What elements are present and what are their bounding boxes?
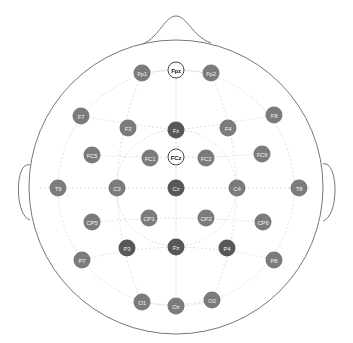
electrode-p4: P4 — [219, 240, 236, 257]
electrode-label: T8 — [296, 185, 303, 191]
electrode-label: P7 — [79, 257, 86, 263]
electrode-label: Fp2 — [206, 70, 216, 76]
electrode-o1: O1 — [134, 294, 151, 311]
electrode-cz: Cz — [168, 180, 185, 197]
electrode-p3: P3 — [119, 240, 136, 257]
right-ear — [323, 164, 335, 221]
electrode-label: CP1 — [143, 215, 154, 221]
electrode-label: F8 — [271, 112, 278, 118]
electrode-f3: F3 — [120, 120, 137, 137]
electrode-o2: O2 — [204, 292, 221, 309]
head-outline-svg — [0, 0, 353, 343]
electrode-label: F7 — [78, 113, 85, 119]
electrode-fp2: Fp2 — [203, 65, 220, 82]
electrode-fc2: FC2 — [198, 150, 215, 167]
electrode-p8: P8 — [266, 252, 283, 269]
electrode-label: Oz — [172, 303, 179, 309]
electrode-fz: Fz — [168, 122, 185, 139]
electrode-label: FC6 — [257, 151, 268, 157]
electrode-label: Cz — [173, 185, 180, 191]
electrode-label: P3 — [124, 245, 131, 251]
electrode-label: C4 — [233, 185, 240, 191]
electrode-cp5: CP5 — [84, 214, 101, 231]
eeg-head-diagram: Fp1FpzFp2F7F3FzF4F8FC5FC1FCzFC2FC6T9C3Cz… — [0, 0, 353, 343]
electrode-label: F4 — [225, 125, 232, 131]
electrode-cp6: CP6 — [255, 214, 272, 231]
electrode-label: Pz — [173, 244, 180, 250]
electrode-label: O1 — [138, 299, 146, 305]
electrode-label: Fp1 — [137, 70, 147, 76]
electrode-pz: Pz — [168, 239, 185, 256]
electrode-label: T9 — [55, 185, 62, 191]
electrode-p7: P7 — [74, 252, 91, 269]
left-ear — [18, 165, 30, 220]
electrode-fcz: FCz — [168, 149, 185, 166]
electrode-c3: C3 — [109, 180, 126, 197]
electrode-oz: Oz — [168, 298, 185, 315]
electrode-t9: T9 — [50, 180, 67, 197]
electrode-t8: T8 — [291, 180, 308, 197]
electrode-label: FC5 — [87, 152, 98, 158]
electrode-label: CP2 — [200, 215, 211, 221]
electrode-fc5: FC5 — [84, 147, 101, 164]
electrode-label: CP6 — [257, 219, 268, 225]
electrode-label: C3 — [113, 185, 120, 191]
electrode-label: P8 — [271, 257, 278, 263]
electrode-label: Fz — [173, 127, 179, 133]
electrode-fc1: FC1 — [142, 150, 159, 167]
electrode-cp1: CP1 — [141, 210, 158, 227]
electrode-label: Fpz — [171, 67, 181, 73]
electrode-c4: C4 — [229, 180, 246, 197]
electrode-cp2: CP2 — [198, 210, 215, 227]
electrode-f4: F4 — [220, 120, 237, 137]
electrode-fc6: FC6 — [254, 146, 271, 163]
electrode-label: CP5 — [86, 219, 97, 225]
electrode-label: O2 — [208, 297, 216, 303]
electrode-label: FCz — [171, 154, 181, 160]
electrode-fp1: Fp1 — [134, 65, 151, 82]
electrode-label: FC2 — [201, 155, 212, 161]
electrode-f8: F8 — [266, 107, 283, 124]
electrode-label: P4 — [224, 245, 231, 251]
electrode-fpz: Fpz — [168, 62, 185, 79]
electrode-label: F3 — [125, 125, 132, 131]
electrode-label: FC1 — [145, 155, 156, 161]
electrode-f7: F7 — [73, 108, 90, 125]
